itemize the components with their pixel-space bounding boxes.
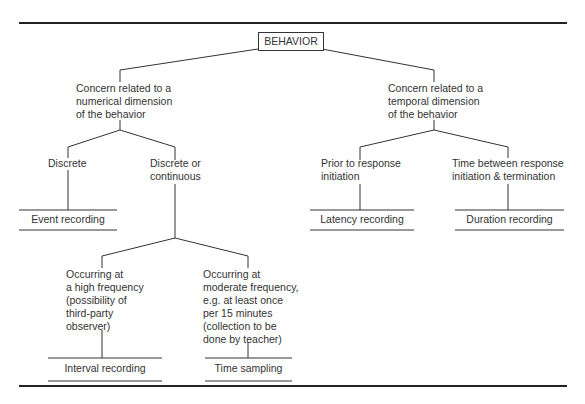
method-interval-recording: Interval recording — [48, 362, 162, 375]
node-numerical-dimension: Concern related to a numerical dimension… — [76, 82, 172, 121]
node-discrete: Discrete — [48, 157, 87, 170]
node-time-between: Time between response initiation & termi… — [452, 157, 564, 183]
method-latency-recording: Latency recording — [310, 213, 414, 226]
method-duration-recording: Duration recording — [455, 213, 564, 226]
root-node-behavior: BEHAVIOR — [258, 32, 324, 51]
method-event-recording: Event recording — [19, 213, 117, 226]
method-time-sampling: Time sampling — [205, 362, 292, 375]
node-high-frequency: Occurring at a high frequency (possibili… — [66, 268, 144, 333]
node-discrete-or-continuous: Discrete or continuous — [150, 157, 201, 183]
node-prior-to-initiation: Prior to response initiation — [321, 157, 401, 183]
node-temporal-dimension: Concern related to a temporal dimension … — [388, 82, 483, 121]
node-moderate-frequency: Occurring at moderate frequency, e.g. at… — [203, 268, 299, 346]
